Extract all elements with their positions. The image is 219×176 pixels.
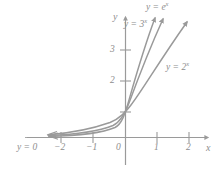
curve-2-to-the-x bbox=[49, 22, 187, 135]
curve-label-3-exponent: x bbox=[144, 17, 147, 24]
curve-label-2-to-the-x: y = 2x bbox=[166, 63, 189, 73]
x-tick-label-0: 0 bbox=[116, 143, 121, 153]
curve-label-e-to-the-x: y = ex bbox=[146, 3, 168, 13]
curve-e-to-the-x bbox=[49, 19, 163, 136]
x-tick-label-1: 1 bbox=[154, 143, 159, 153]
curve-label-e-exponent: x bbox=[166, 0, 169, 7]
y-tick-label-3: 3 bbox=[110, 45, 115, 55]
curve-label-3-base: y = 3 bbox=[124, 19, 144, 29]
y-axis-label: y bbox=[113, 12, 117, 22]
y-axis bbox=[120, 17, 131, 165]
y-tick-label-2: 2 bbox=[110, 76, 115, 86]
x-axis-label: x bbox=[206, 143, 210, 153]
exponential-functions-figure: y x 3 2 −2 −1 0 1 2 y = ex y = 3x y = 2x… bbox=[0, 0, 219, 176]
curve-label-3-to-the-x: y = 3x bbox=[124, 20, 147, 30]
x-tick-label-minus-1: −1 bbox=[86, 143, 97, 153]
curve-label-2-base: y = 2 bbox=[166, 62, 186, 72]
curve-label-e-base: y = e bbox=[146, 2, 166, 12]
curve-label-2-exponent: x bbox=[186, 60, 189, 67]
x-tick-label-minus-2: −2 bbox=[54, 143, 65, 153]
x-tick-label-2: 2 bbox=[186, 143, 191, 153]
asymptote-label: y = 0 bbox=[17, 143, 37, 153]
